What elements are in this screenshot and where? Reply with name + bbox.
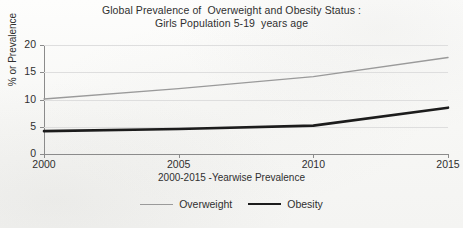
x-axis-title: 2000-2015 -Yearwise Prevalence: [0, 172, 463, 183]
legend-line-obesity-icon: [248, 203, 281, 205]
y-tick-label: 15: [10, 65, 36, 77]
series-line-overweight: [44, 58, 448, 99]
chart-title: Global Prevalence of Overweight and Obes…: [0, 4, 463, 17]
x-tick-label: 2015: [428, 158, 463, 170]
series-line-obesity: [44, 108, 448, 131]
chart-figure: Global Prevalence of Overweight and Obes…: [0, 0, 463, 228]
legend-label-obesity: Obesity: [287, 198, 323, 210]
y-tick-label: 20: [10, 38, 36, 50]
legend-item-obesity[interactable]: Obesity: [248, 198, 323, 210]
y-tick-label: 10: [10, 93, 36, 105]
x-tick-label: 2000: [24, 158, 64, 170]
legend-line-overweight-icon: [140, 204, 173, 205]
legend-label-overweight: Overweight: [179, 198, 232, 210]
x-tick-label: 2005: [159, 158, 199, 170]
series-lines: [44, 45, 448, 155]
x-tick-label: 2010: [293, 158, 333, 170]
chart-title-block: Global Prevalence of Overweight and Obes…: [0, 4, 463, 30]
y-tick-label: 5: [10, 120, 36, 132]
chart-legend: Overweight Obesity: [0, 198, 463, 210]
chart-subtitle: Girls Population 5-19 years age: [0, 17, 463, 30]
legend-item-overweight[interactable]: Overweight: [140, 198, 232, 210]
plot-area: [44, 45, 448, 154]
